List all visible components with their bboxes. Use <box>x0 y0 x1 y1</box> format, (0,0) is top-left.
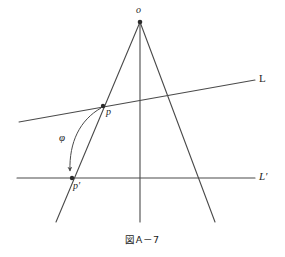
figure-container: o p p′ φ L L′ 図A－7 <box>0 0 285 257</box>
ray-oblique <box>56 22 140 222</box>
figure-caption: 図A－7 <box>0 232 285 246</box>
label-line-L-prime: L′ <box>259 171 268 182</box>
point-marker-o <box>138 20 143 25</box>
point-marker-p <box>101 104 105 108</box>
label-angle-phi: φ <box>59 132 65 143</box>
geometry-diagram <box>0 0 285 257</box>
label-point-p-prime: p′ <box>73 181 80 191</box>
label-point-p: p <box>106 107 111 117</box>
ray-right <box>140 22 215 222</box>
label-line-L: L <box>259 73 266 84</box>
line-L <box>19 80 255 122</box>
label-apex-o: o <box>136 5 141 15</box>
arrow-p-to-p-prime <box>70 108 101 171</box>
